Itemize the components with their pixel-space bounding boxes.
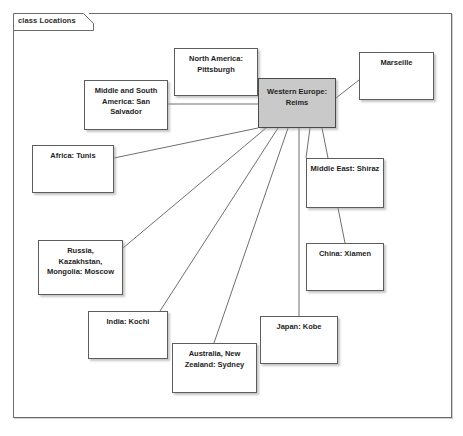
- node-label-africa: Africa: Tunis: [33, 146, 113, 162]
- node-china[interactable]: China: Xiamen: [306, 243, 384, 291]
- node-japan[interactable]: Japan: Kobe: [260, 316, 338, 364]
- node-label-western-europe: Western Europe: Reims: [259, 79, 335, 108]
- node-label-russia-kazakhstan-mongolia: Russia, Kazakhstan, Mongolia: Moscow: [39, 241, 122, 278]
- node-india[interactable]: India: Kochi: [88, 311, 168, 359]
- node-label-china: China: Xiamen: [307, 244, 383, 260]
- node-marseille[interactable]: Marseille: [359, 52, 434, 100]
- node-label-middle-south-america: Middle and South America: San Salvador: [85, 81, 167, 118]
- node-label-north-america: North America: Pittsburgh: [175, 49, 257, 75]
- node-western-europe[interactable]: Western Europe: Reims: [258, 78, 336, 128]
- node-africa[interactable]: Africa: Tunis: [32, 145, 114, 193]
- node-label-australia-new-zealand: Australia, New Zealand: Sydney: [173, 344, 256, 370]
- diagram-canvas: class Locations North America: Pittsburg…: [0, 0, 463, 436]
- node-north-america[interactable]: North America: Pittsburgh: [174, 48, 258, 96]
- frame-tab: class Locations: [13, 13, 89, 30]
- node-label-india: India: Kochi: [89, 312, 167, 328]
- node-label-japan: Japan: Kobe: [261, 317, 337, 333]
- node-label-marseille: Marseille: [360, 53, 433, 69]
- node-russia-kazakhstan-mongolia[interactable]: Russia, Kazakhstan, Mongolia: Moscow: [38, 240, 123, 295]
- node-label-middle-east: Middle East: Shiraz: [307, 159, 383, 175]
- node-middle-east[interactable]: Middle East: Shiraz: [306, 158, 384, 208]
- frame-tab-label: class Locations: [18, 16, 76, 25]
- node-australia-new-zealand[interactable]: Australia, New Zealand: Sydney: [172, 343, 257, 393]
- node-middle-south-america[interactable]: Middle and South America: San Salvador: [84, 80, 168, 130]
